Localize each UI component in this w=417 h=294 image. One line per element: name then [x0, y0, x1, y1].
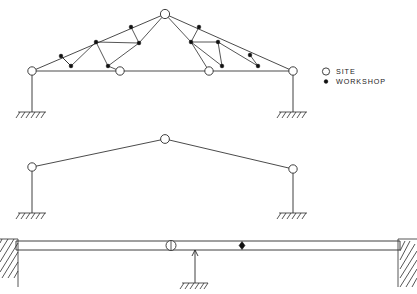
ground-support-frame-left — [16, 213, 46, 219]
workshop-joint — [216, 40, 220, 44]
end-wall-left — [0, 239, 18, 287]
portal-frame-rafters — [32, 139, 293, 169]
site-joint — [289, 165, 297, 173]
site-joint — [116, 67, 124, 75]
continuous-beam — [16, 241, 400, 250]
truss-web-members-right — [165, 14, 258, 71]
beam-prop-column — [192, 250, 198, 283]
ground-support-truss-right — [277, 112, 307, 118]
workshop-joint — [197, 25, 201, 29]
workshop-joint — [69, 64, 73, 68]
workshop-joint — [137, 41, 141, 45]
portal-frame-columns — [32, 167, 293, 213]
ground-support-frame-right — [277, 213, 307, 219]
workshop-joint — [220, 64, 224, 68]
continuous-beam-diagram — [0, 239, 417, 289]
legend-workshop-icon — [324, 80, 328, 84]
structural-connection-diagram-canvas: SITE WORKSHOP — [0, 0, 417, 294]
workshop-joint — [248, 53, 252, 57]
ground-support-truss-left — [16, 112, 46, 118]
truss-top-chord — [32, 14, 293, 71]
legend-site-icon — [322, 68, 329, 75]
workshop-joint — [189, 40, 193, 44]
workshop-joint — [129, 25, 133, 29]
workshop-joint — [59, 54, 63, 58]
truss-columns — [32, 71, 293, 112]
workshop-joint — [256, 64, 260, 68]
site-joint — [205, 67, 213, 75]
site-joint-apex — [160, 9, 169, 18]
site-joint — [28, 67, 36, 75]
legend-site-label: SITE — [336, 67, 356, 76]
end-wall-right — [398, 239, 417, 287]
site-joint — [28, 163, 36, 171]
joint-type-legend: SITE WORKSHOP — [322, 67, 386, 86]
ground-support-beam-prop — [180, 283, 208, 289]
workshop-joint — [106, 64, 110, 68]
portal-frame-diagram — [16, 135, 307, 219]
beam-workshop-joint — [239, 242, 245, 250]
workshop-joint — [94, 40, 98, 44]
beam-site-joint — [166, 241, 176, 251]
site-joint — [289, 67, 297, 75]
site-joint-apex — [161, 135, 170, 144]
truss-web-members-left — [61, 14, 165, 71]
legend-workshop-label: WORKSHOP — [336, 77, 386, 86]
truss-diagram — [16, 9, 307, 118]
portal-frame-site-joints — [28, 135, 297, 174]
